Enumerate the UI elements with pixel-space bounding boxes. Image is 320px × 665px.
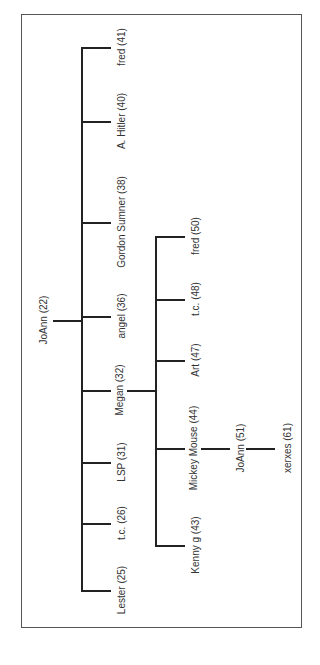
branch-line	[81, 523, 111, 525]
node-lsp-31: LSP (31)	[116, 442, 127, 481]
branch-line	[81, 121, 111, 123]
node-xerxes-61: xerxes (61)	[282, 423, 293, 473]
node-tc-26: t.c. (26)	[116, 506, 127, 540]
node-kenny-g-43: Kenny g (43)	[190, 516, 201, 573]
node-lester-25: Lester (25)	[116, 566, 127, 614]
branch-line	[155, 448, 185, 450]
branch-line	[81, 590, 111, 592]
node-joann-51: JoAnn (51)	[235, 424, 246, 473]
branch-line	[81, 222, 111, 224]
root-trunk-line	[81, 47, 83, 591]
node-art-47: Art (47)	[190, 343, 201, 376]
mickey-connector-line	[201, 448, 230, 450]
node-mickey-mouse-44: Mickey Mouse (44)	[188, 406, 199, 490]
megan-connector-line	[127, 390, 156, 392]
branch-line	[155, 545, 185, 547]
joann51-connector-line	[246, 448, 275, 450]
node-gordon-sumner-38: Gordon Sumner (38)	[116, 176, 127, 268]
branch-line	[81, 390, 111, 392]
node-root-joann-22: JoAnn (22)	[38, 296, 49, 345]
node-a-hitler-40: A. Hitler (40)	[116, 93, 127, 149]
node-fred-50: fred (50)	[190, 217, 201, 255]
branch-line	[155, 236, 185, 238]
branch-line	[155, 299, 185, 301]
branch-line	[81, 47, 111, 49]
node-megan-32: Megan (32)	[114, 364, 125, 415]
branch-line	[155, 360, 185, 362]
root-connector-line	[53, 320, 81, 322]
node-fred-41: fred (41)	[116, 28, 127, 66]
node-tc-48: t.c. (48)	[190, 282, 201, 316]
branch-line	[81, 316, 111, 318]
megan-trunk-line	[155, 236, 157, 546]
node-angel-36: angel (36)	[116, 293, 127, 338]
branch-line	[81, 462, 111, 464]
